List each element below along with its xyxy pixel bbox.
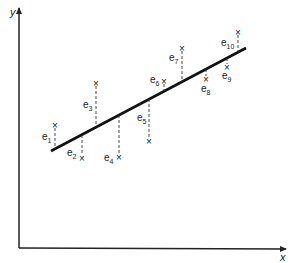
label-e3: e3 [83,99,93,112]
label-e6: e6 [150,74,160,87]
regression-residual-diagram: y x × × × × × × × × × × e1 e2 e3 e4 e5 e… [0,0,294,263]
x-axis [19,248,286,249]
label-e8: e8 [201,83,211,96]
point-marker-1: × [52,120,58,131]
point-marker-2: × [79,153,85,164]
point-marker-10: × [235,27,241,38]
label-e4: e4 [104,152,114,165]
point-marker-7: × [179,43,185,54]
label-e2: e2 [67,147,77,160]
residual-labels: e1 e2 e3 e4 e5 e6 e7 e8 e9 e10 [42,37,234,165]
label-e1: e1 [42,131,52,144]
x-axis-label: x [279,251,286,263]
data-points: × × × × × × × × × × [52,27,241,164]
point-marker-6: × [161,76,167,87]
label-e10: e10 [221,37,234,50]
label-e9: e9 [222,70,232,83]
point-marker-4: × [116,152,122,163]
y-axis-label: y [9,6,17,18]
label-e5: e5 [137,112,147,125]
point-marker-5: × [146,136,152,147]
label-e7: e7 [169,52,179,65]
point-marker-3: × [93,78,99,89]
